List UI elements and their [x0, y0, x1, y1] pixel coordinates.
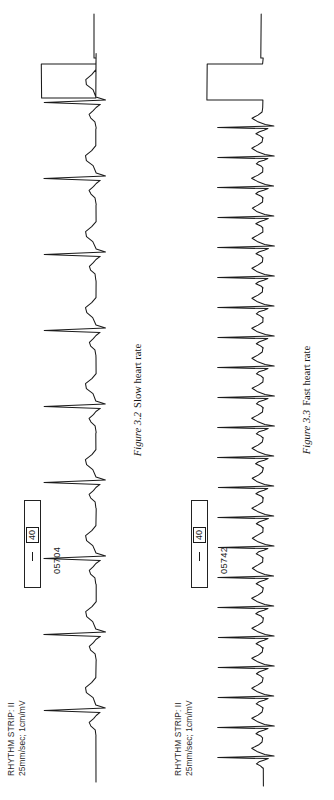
ecg-strip-1: RHYTHM STRIP: II 25mm/sec; 1cm/mV 40 057… [0, 0, 125, 800]
figure-block-2: RHYTHM STRIP: II 25mm/sec; 1cm/mV 40 057… [167, 0, 334, 800]
calibration-dash-icon [32, 552, 33, 561]
figure-title-1: Slow heart rate [132, 344, 143, 408]
figure-title-2: Fast heart rate [301, 346, 312, 406]
calibration-box-2: 40 [191, 500, 208, 588]
figure-block-1: RHYTHM STRIP: II 25mm/sec; 1cm/mV 40 057… [0, 0, 167, 800]
ecg-strip-2: RHYTHM STRIP: II 25mm/sec; 1cm/mV 40 057… [167, 0, 292, 800]
strip-id-2: 05742 [219, 547, 229, 574]
figure-number-2: Figure 3.3 [301, 410, 312, 454]
strip-id-1: 05704 [52, 547, 62, 574]
calibration-box-1: 40 [24, 500, 41, 588]
scanned-page: RHYTHM STRIP: II 25mm/sec; 1cm/mV 40 057… [0, 0, 334, 800]
figure-caption-2: Figure 3.3Fast heart rate [301, 0, 312, 800]
calibration-value-2: 40 [193, 527, 206, 543]
page-content: RHYTHM STRIP: II 25mm/sec; 1cm/mV 40 057… [0, 0, 334, 800]
ecg-trace-2 [167, 0, 292, 800]
ecg-trace-1 [0, 0, 125, 800]
calibration-value-1: 40 [26, 527, 39, 543]
calibration-dash-icon [199, 552, 200, 561]
figure-number-1: Figure 3.2 [132, 412, 143, 456]
figure-caption-1: Figure 3.2Slow heart rate [132, 0, 143, 800]
